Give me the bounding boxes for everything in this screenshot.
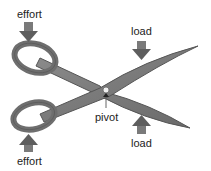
pivot-dot — [103, 87, 109, 93]
label-effort-top: effort — [17, 8, 42, 20]
label-load-top: load — [131, 25, 152, 37]
scissors-diagram — [0, 0, 211, 171]
arrow-down-icon-effort-top — [19, 22, 38, 42]
label-load-bottom: load — [131, 137, 152, 149]
arrow-up-icon-load-bottom — [132, 115, 151, 134]
arrow-down-icon-load-top — [132, 41, 151, 60]
arrow-up-icon-effort-bottom — [19, 134, 38, 152]
label-pivot: pivot — [95, 111, 118, 123]
label-effort-bottom: effort — [17, 155, 42, 167]
